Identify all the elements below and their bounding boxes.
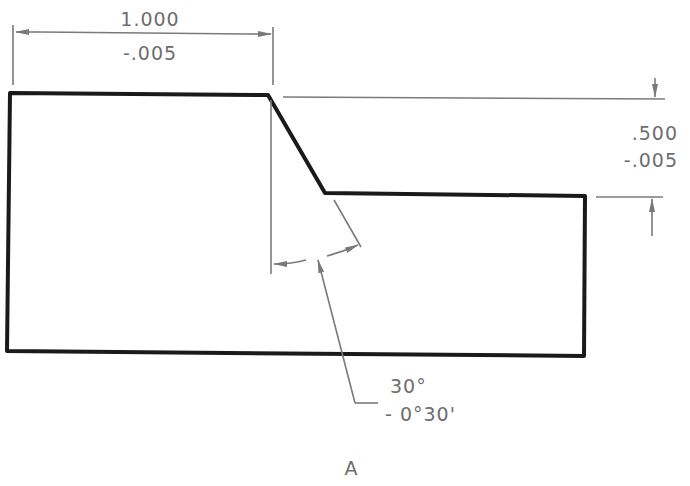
angle-nominal: 30° [390, 375, 427, 397]
step-height-dimension: .500 -.005 [283, 78, 678, 236]
step-height-nominal: .500 [632, 122, 678, 144]
part-outline [7, 93, 585, 356]
technical-drawing: 1.000 -.005 .500 -.005 30° - 0°30' A [0, 0, 690, 486]
view-label: A [345, 457, 358, 479]
width-nominal: 1.000 [120, 8, 179, 30]
step-height-tolerance: -.005 [624, 149, 678, 171]
angle-tolerance: - 0°30' [385, 403, 456, 425]
width-tolerance: -.005 [123, 42, 177, 64]
width-dimension: 1.000 -.005 [13, 8, 273, 85]
